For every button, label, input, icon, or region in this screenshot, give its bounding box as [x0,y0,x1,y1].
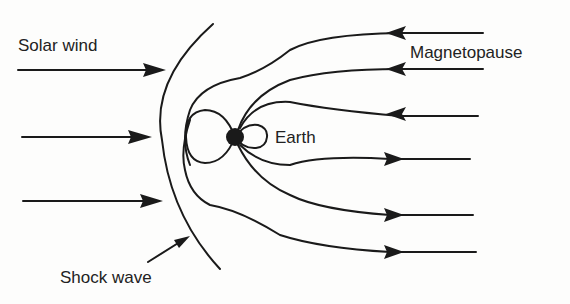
magnetopause-label: Magnetopause [410,44,522,61]
solar-wind-arrow-3 [23,194,163,208]
solar-wind-label: Solar wind [18,37,97,54]
solar-wind-arrows [18,63,166,208]
shock-wave-label: Shock wave [60,269,152,286]
solar-wind-arrow-1 [18,63,166,77]
shock-wave-curve [160,24,220,269]
earth-dot [226,128,244,146]
solar-wind-arrow-2 [22,130,152,144]
earth-label: Earth [275,129,316,146]
shock-wave-pointer [148,236,190,262]
magnetosphere-diagram: Solar wind Magnetopause Earth Shock wave [0,0,570,304]
